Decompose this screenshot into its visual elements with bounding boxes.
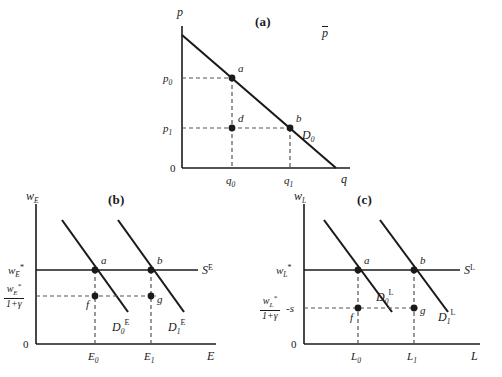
panel-b-xtick-e0: E0 bbox=[87, 350, 99, 365]
panel-c-x-axis-label: L bbox=[470, 349, 478, 363]
panel-a-point-a bbox=[229, 75, 236, 82]
panel-c-curve-label-d1l: D1L bbox=[437, 308, 455, 326]
panel-c-point-g-label: g bbox=[420, 304, 426, 316]
panel-b-x-axis-label: E bbox=[206, 349, 215, 363]
panel-b-curve-label-d1e: D1E bbox=[167, 318, 185, 336]
panel-b-ytick-wage-fraction: wE* 1+γ bbox=[4, 283, 24, 309]
panel-a-curve-label-d0: D0 bbox=[301, 128, 315, 144]
panel-c-point-g bbox=[411, 305, 418, 312]
panel-c-ytick-s-suffix: -s bbox=[286, 302, 294, 314]
panel-a-y-intercept-label: p bbox=[322, 26, 328, 41]
panel-c-point-a-label: a bbox=[364, 254, 370, 266]
panel-b: (b) a b f g bbox=[0, 188, 256, 377]
panel-b-origin-label: 0 bbox=[23, 338, 29, 350]
panel-c-point-f bbox=[355, 305, 362, 312]
panel-a-point-b bbox=[287, 125, 294, 132]
panel-a-point-a-label: a bbox=[238, 62, 244, 74]
panel-c-xtick-l0: L0 bbox=[350, 350, 361, 365]
panel-b-plot: a b f g wE E 0 wE* E0 E1 SE D0E D1E bbox=[0, 188, 256, 377]
panel-a-point-b-label: b bbox=[296, 112, 302, 124]
panel-c-plot: a b f g wL L 0 wL* -s L0 L1 SL D0L D1L bbox=[252, 188, 502, 377]
panel-c-point-b bbox=[411, 267, 418, 274]
panel-c-ytick-wage: wL* bbox=[276, 263, 292, 279]
panel-a-ytick-p0: p0 bbox=[162, 72, 173, 87]
economics-figure: (a) a b d p q 0 bbox=[0, 0, 502, 377]
panel-a-x-axis-label: q bbox=[341, 172, 347, 186]
panel-b-y-axis-label: wE bbox=[26, 189, 39, 205]
panel-b-point-g bbox=[148, 293, 155, 300]
panel-b-point-b bbox=[148, 267, 155, 274]
panel-a-ytick-p1: p1 bbox=[162, 122, 172, 137]
panel-b-xtick-e1: E1 bbox=[143, 350, 154, 365]
panel-c-label: (c) bbox=[357, 192, 372, 208]
panel-c: (c) a b f g bbox=[252, 188, 502, 377]
panel-a-demand-curve-d0 bbox=[182, 35, 336, 168]
panel-b-curve-label-d0e: D0E bbox=[111, 318, 129, 336]
panel-c-point-a bbox=[355, 267, 362, 274]
panel-c-point-f-label: f bbox=[350, 311, 355, 323]
panel-a-y-axis-label: p bbox=[176, 5, 183, 19]
panel-b-ytick-wage: wE* bbox=[8, 263, 24, 279]
panel-a-label: (a) bbox=[255, 14, 271, 30]
panel-b-point-g-label: g bbox=[157, 293, 163, 305]
panel-b-curve-label-se: SE bbox=[202, 263, 213, 277]
panel-a-point-d bbox=[229, 125, 236, 132]
panel-a-xtick-q0: q0 bbox=[226, 174, 236, 189]
panel-a: (a) a b d p q 0 bbox=[150, 0, 360, 190]
panel-b-point-f-label: f bbox=[86, 298, 91, 310]
panel-b-point-a-label: a bbox=[101, 254, 107, 266]
panel-c-curve-label-d0l: D0L bbox=[375, 288, 393, 306]
panel-b-point-a bbox=[92, 267, 99, 274]
panel-b-label: (b) bbox=[108, 192, 125, 208]
panel-c-ytick-wage-fraction: wL* 1+γ bbox=[260, 295, 280, 321]
panel-c-xtick-l1: L1 bbox=[406, 350, 417, 365]
panel-c-point-b-label: b bbox=[420, 254, 426, 266]
panel-b-point-b-label: b bbox=[157, 254, 163, 266]
panel-a-xtick-q1: q1 bbox=[284, 174, 293, 189]
panel-c-curve-label-sl: SL bbox=[464, 263, 475, 277]
panel-b-point-f bbox=[92, 293, 99, 300]
panel-c-y-axis-label: wL bbox=[294, 189, 306, 205]
panel-a-origin-label: 0 bbox=[170, 162, 176, 174]
panel-c-origin-label: 0 bbox=[291, 338, 297, 350]
panel-a-point-d-label: d bbox=[238, 112, 244, 124]
